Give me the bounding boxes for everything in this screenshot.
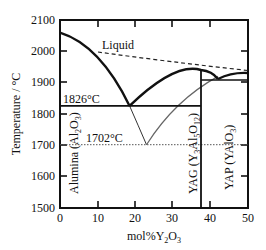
y-tick-1900: 1900 [31, 75, 55, 89]
y-tick-labels: 2100 2000 1900 1800 1700 1600 1500 [31, 13, 55, 215]
x-tick-0: 0 [57, 211, 63, 225]
x-ticks-top [98, 20, 210, 27]
y-tick-1700: 1700 [31, 138, 55, 152]
y-tick-2000: 2000 [31, 44, 55, 58]
x-tick-labels: 0 10 20 30 40 50 [57, 211, 254, 225]
x-tick-50: 50 [242, 211, 254, 225]
liquidus-yap [218, 73, 248, 79]
x-ticks-bottom [98, 201, 210, 208]
yag-label: YAG (Y3Al5O12) [186, 113, 202, 194]
phase-diagram: 2100 2000 1900 1800 1700 1600 1500 0 10 … [0, 0, 266, 250]
eutectic-1702-label: 1702°C [86, 131, 123, 145]
x-tick-20: 20 [129, 211, 141, 225]
yap-label: YAP (YAlO3) [222, 125, 238, 190]
x-tick-40: 40 [204, 211, 216, 225]
y-tick-1600: 1600 [31, 169, 55, 183]
alumina-label: Alumina (Al2O3) [67, 112, 83, 194]
x-tick-30: 30 [166, 211, 178, 225]
liquid-label: Liquid [102, 38, 134, 52]
liquid-dashed-line [98, 52, 248, 71]
eutectic-1826-label: 1826°C [63, 92, 100, 106]
x-axis-label: mol%Y2O3 [127, 229, 181, 245]
x-tick-10: 10 [92, 211, 104, 225]
y-tick-1800: 1800 [31, 107, 55, 121]
metastable-liquidus-alumina [130, 106, 147, 145]
y-tick-1500: 1500 [31, 201, 55, 215]
metastable-liquidus-yap [147, 76, 219, 144]
liquidus-yag [130, 69, 218, 106]
y-tick-2100: 2100 [31, 13, 55, 27]
y-ticks-left [60, 51, 67, 176]
y-axis-label: Temperature / °C [9, 73, 23, 156]
